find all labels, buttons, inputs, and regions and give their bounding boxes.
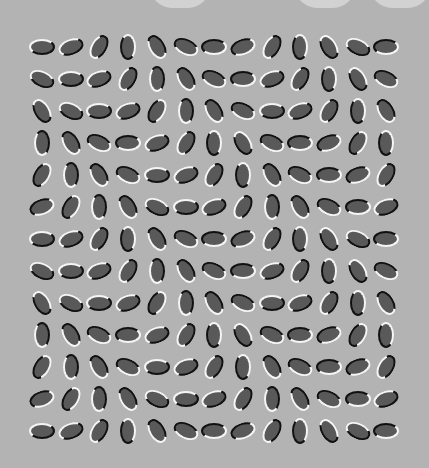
ellipse xyxy=(115,327,141,343)
ellipse xyxy=(199,258,229,283)
ellipse xyxy=(316,167,342,183)
ellipse xyxy=(58,71,84,87)
ellipse xyxy=(371,66,401,91)
ellipse xyxy=(170,226,200,251)
ellipse xyxy=(287,135,313,151)
ellipse xyxy=(201,423,227,439)
ellipse xyxy=(91,386,107,412)
ellipse xyxy=(285,99,315,123)
ellipse xyxy=(86,352,113,383)
ellipse xyxy=(29,160,56,191)
ellipse xyxy=(259,295,285,311)
ellipse xyxy=(287,384,314,415)
ellipse xyxy=(172,256,199,287)
ellipse xyxy=(86,103,112,119)
ellipse xyxy=(142,323,172,347)
ellipse xyxy=(29,423,55,439)
ellipse xyxy=(149,66,165,92)
ellipse xyxy=(84,259,114,283)
ellipse xyxy=(149,258,165,284)
ellipse xyxy=(56,419,86,443)
ellipse xyxy=(201,352,228,383)
ellipse xyxy=(350,98,366,124)
ellipse xyxy=(144,359,170,375)
ellipse xyxy=(235,354,251,380)
ellipse xyxy=(170,418,200,443)
ellipse xyxy=(143,224,170,255)
ellipse xyxy=(27,258,57,283)
ellipse xyxy=(201,160,228,191)
ellipse xyxy=(316,224,343,255)
ellipse xyxy=(373,423,399,439)
ellipse xyxy=(86,416,113,447)
ellipse xyxy=(256,130,286,155)
ellipse xyxy=(344,128,371,159)
ellipse xyxy=(172,64,199,95)
ellipse xyxy=(371,258,401,283)
ellipse xyxy=(173,199,199,215)
ellipse xyxy=(113,291,143,315)
ellipse xyxy=(287,64,314,95)
ellipse xyxy=(230,71,256,87)
ellipse xyxy=(229,384,256,415)
ellipse xyxy=(56,98,86,123)
ellipse xyxy=(86,224,113,255)
ellipse xyxy=(257,67,287,91)
ellipse xyxy=(206,130,222,156)
ellipse xyxy=(84,130,114,155)
ellipse xyxy=(314,323,344,347)
ellipse xyxy=(229,192,256,223)
ellipse xyxy=(171,355,201,379)
ellipse xyxy=(143,96,170,127)
ellipse xyxy=(343,418,373,443)
ellipse xyxy=(201,96,228,127)
ellipse xyxy=(378,130,394,156)
ellipse xyxy=(142,386,172,411)
ellipse xyxy=(285,354,315,379)
ellipse xyxy=(373,96,400,127)
ellipse xyxy=(229,320,256,351)
ellipse xyxy=(229,128,256,159)
ellipse xyxy=(115,192,142,223)
ellipse xyxy=(115,256,142,287)
ellipse xyxy=(344,64,371,95)
ellipse xyxy=(345,199,371,215)
ellipse xyxy=(321,66,337,92)
ellipse xyxy=(287,256,314,287)
ellipse xyxy=(113,99,143,123)
ellipse xyxy=(172,128,199,159)
ellipse xyxy=(316,96,343,127)
ellipse xyxy=(113,354,143,379)
ellipse xyxy=(343,163,373,187)
ellipse xyxy=(258,224,285,255)
ellipse xyxy=(201,231,227,247)
ellipse xyxy=(57,320,84,351)
ellipse xyxy=(378,322,394,348)
ellipse xyxy=(29,231,55,247)
ellipse xyxy=(373,288,400,319)
ellipse xyxy=(120,226,136,252)
ellipse xyxy=(115,135,141,151)
ellipse xyxy=(63,162,79,188)
ellipse xyxy=(113,162,143,187)
ellipse xyxy=(199,66,229,91)
ellipse xyxy=(56,290,86,315)
ellipse xyxy=(29,352,56,383)
ellipse xyxy=(316,32,343,63)
ellipse xyxy=(84,67,114,91)
ellipse xyxy=(171,163,201,187)
ellipse xyxy=(256,322,286,347)
ellipse xyxy=(29,96,56,127)
ellipse xyxy=(63,354,79,380)
ellipse xyxy=(172,320,199,351)
ellipse xyxy=(206,322,222,348)
ellipse xyxy=(27,387,57,411)
ellipse xyxy=(228,419,258,443)
ellipse xyxy=(34,322,50,348)
ellipse xyxy=(84,322,114,347)
ellipse xyxy=(115,384,142,415)
ellipse xyxy=(258,32,285,63)
ellipse xyxy=(343,34,373,59)
ellipse xyxy=(201,288,228,319)
